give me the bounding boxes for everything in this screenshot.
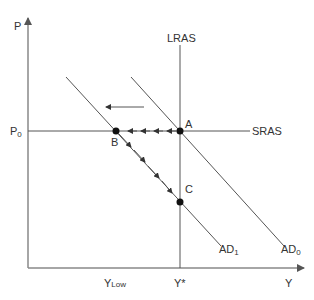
point-c: [177, 199, 184, 206]
point-c-label: C: [185, 183, 193, 195]
ad1-curve: [66, 77, 221, 246]
point-b: [113, 128, 120, 135]
ad0-curve: [131, 77, 284, 246]
point-b-label: B: [111, 136, 118, 148]
x-axis-label: Y: [285, 277, 293, 289]
y-axis-label: P: [14, 20, 21, 32]
ystar-label: Y*: [174, 277, 186, 289]
sras-label: SRAS: [252, 125, 282, 137]
point-a: [177, 128, 184, 135]
ad-as-diagram: P P0 LRAS SRAS A B C AD1 AD0 YLow Y* Y: [0, 0, 314, 300]
lras-label: LRAS: [167, 32, 196, 44]
ad1-label: AD1: [219, 243, 239, 257]
point-a-label: A: [185, 118, 193, 130]
ylow-label: YLow: [104, 277, 126, 289]
p0-label: P0: [10, 125, 22, 139]
ad0-label: AD0: [281, 243, 301, 257]
